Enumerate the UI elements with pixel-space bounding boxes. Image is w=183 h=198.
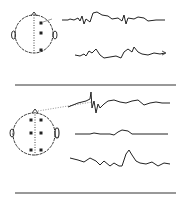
electrode-icon [40,119,43,122]
eeg-trace [75,130,168,135]
electrode-icon [30,149,33,152]
electrode-group-bottom [30,119,43,152]
eeg-figure [0,0,183,198]
eeg-trace [62,12,165,24]
figure-canvas [0,0,183,198]
head-diagram-top [12,12,58,53]
panel-bottom [10,92,170,166]
head-outline-icon [13,113,55,155]
electrode-icon [30,119,33,122]
right-ear-icon [55,128,59,138]
electrode-icon [30,132,33,135]
panel-top [12,12,167,58]
eeg-trace [75,47,165,58]
electrode-icon [40,32,43,35]
electrode-group-top [40,22,43,52]
electrode-icon [40,149,43,152]
electrode-icon [40,49,43,52]
electrode-icon [40,132,43,135]
electrode-icon [40,22,43,25]
head-diagram-bottom [10,109,59,156]
right-ear-icon [53,31,57,39]
electrode-connector-dotted [38,102,92,111]
electrode-leader-line [43,19,52,22]
eeg-trace [68,92,170,113]
eeg-trace [70,150,170,166]
